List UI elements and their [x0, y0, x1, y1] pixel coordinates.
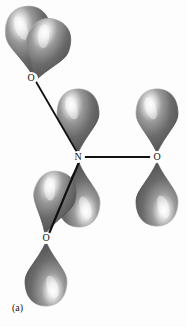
atom-label-o: O [150, 151, 164, 163]
lobe-shape [136, 162, 178, 226]
orbital-lobe [136, 162, 178, 226]
lobe-shape [25, 242, 67, 306]
orbital-diagram-canvas [0, 0, 187, 327]
orbital-lobe [25, 242, 67, 306]
atom-label-n: N [71, 151, 85, 163]
lobe-shape [136, 89, 178, 153]
atom-label-o: O [24, 72, 38, 84]
lobe-shape [57, 89, 99, 153]
figure-caption: (a) [12, 302, 23, 313]
orbital-lobe [136, 89, 178, 153]
orbital-diagram-figure: ONOO (a) [0, 0, 187, 327]
orbital-lobe [57, 89, 99, 153]
atom-label-o: O [39, 232, 53, 244]
